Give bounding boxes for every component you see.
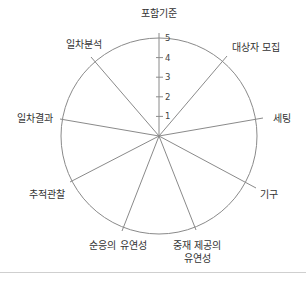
tick-label: 4 (165, 53, 170, 63)
axis-spoke (122, 136, 159, 231)
scale-ticks: 12345 (156, 33, 170, 121)
bottom-divider (0, 272, 306, 273)
axis-label: 중재 제공의유연성 (173, 240, 221, 264)
tick-label: 2 (165, 92, 170, 102)
axis-label: 일차결과 (17, 113, 53, 124)
axis-label: 기구 (260, 189, 278, 200)
tick-label: 5 (165, 33, 170, 43)
axis-label: 일차분석 (66, 39, 102, 50)
axis-label: 세팅 (273, 113, 291, 124)
axis-label: 대상자 모집 (232, 42, 280, 53)
axis-label: 추적관찰 (29, 189, 65, 200)
tick-label: 3 (165, 72, 170, 82)
axis-spoke (159, 118, 263, 136)
radar-chart: 12345 포함기준대상자 모집세팅기구중재 제공의유연성순응의 유연성추적관찰… (0, 0, 306, 284)
axis-label: 포함기준 (141, 8, 177, 19)
axis-spoke (60, 119, 159, 136)
axis-spoke (91, 57, 159, 136)
axis-spoke (159, 136, 256, 188)
axis-spoke (70, 136, 159, 182)
axis-label: 순응의 유연성 (89, 240, 146, 251)
axis-labels: 포함기준대상자 모집세팅기구중재 제공의유연성순응의 유연성추적관찰일차결과일차… (17, 8, 291, 264)
axis-spoke (159, 136, 196, 230)
tick-label: 1 (165, 111, 170, 121)
